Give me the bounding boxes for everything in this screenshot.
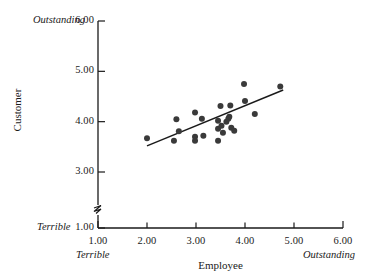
data-point: [231, 128, 237, 134]
data-point: [241, 81, 247, 87]
x-axis-ticks: [98, 221, 343, 228]
y-anchor-high-label: Outstanding: [33, 14, 85, 25]
data-point: [176, 128, 182, 134]
data-point: [277, 83, 283, 89]
data-point: [218, 103, 224, 109]
data-point: [192, 110, 198, 116]
x-tick-label: 1.00: [78, 235, 118, 246]
data-point: [192, 138, 198, 144]
data-point: [144, 135, 150, 141]
y-anchor-low-label: Terrible: [37, 221, 70, 232]
x-anchor-high-label: Outstanding: [303, 249, 355, 260]
x-axis-title: Employee: [181, 259, 261, 271]
data-point: [200, 133, 206, 139]
y-tick-label: 4.00: [58, 115, 94, 126]
data-point: [220, 130, 226, 136]
axis-break-symbol: [94, 206, 101, 214]
data-point: [199, 116, 205, 122]
x-tick-label: 4.00: [225, 235, 265, 246]
x-tick-label: 6.00: [323, 235, 363, 246]
data-point: [218, 123, 224, 129]
trend-line: [147, 90, 283, 146]
data-point: [215, 118, 221, 124]
y-axis-ticks: [98, 21, 105, 228]
data-point: [252, 111, 258, 117]
x-tick-label: 5.00: [274, 235, 314, 246]
data-point: [173, 116, 179, 122]
x-tick-label: 3.00: [176, 235, 216, 246]
data-point: [215, 138, 221, 144]
y-tick-label: 3.00: [58, 165, 94, 176]
y-tick-label: 5.00: [58, 64, 94, 75]
y-axis-title: Customer: [11, 80, 23, 140]
data-points: [144, 81, 283, 144]
data-point: [227, 103, 233, 109]
y-axis: [94, 21, 101, 228]
x-anchor-low-label: Terrible: [76, 249, 109, 260]
data-point: [226, 114, 232, 120]
x-tick-label: 2.00: [127, 235, 167, 246]
data-point: [242, 98, 248, 104]
data-point: [171, 138, 177, 144]
